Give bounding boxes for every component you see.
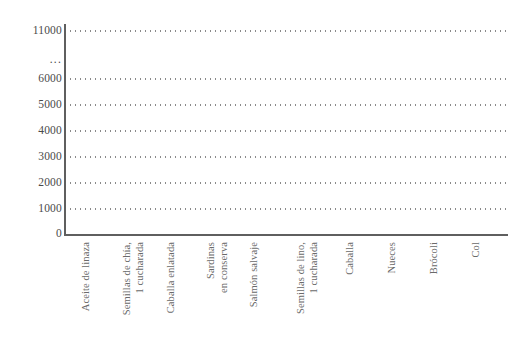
y-axis-tick-label: 5000 — [4, 98, 62, 110]
y-axis-tick-label: 11000 — [4, 24, 62, 36]
x-axis-label-caballa: Caballa — [344, 242, 357, 362]
gridline — [68, 182, 507, 184]
x-axis-label-brocoli: Brócoli — [428, 242, 441, 362]
x-axis-label-semillas-de-lino: Semillas de lino, 1 cucharada — [295, 242, 320, 362]
y-axis-tick-labels: 11000...6000500040003000200010000 — [0, 0, 62, 363]
gridline — [68, 78, 507, 80]
y-axis-tick-label: 2000 — [4, 176, 62, 188]
x-axis-label-salmon-salvaje: Salmón salvaje — [248, 242, 261, 362]
x-axis-label-col: Col — [470, 242, 483, 362]
gridline — [68, 208, 507, 210]
y-axis-line — [64, 24, 66, 236]
gridline — [68, 130, 507, 132]
gridline — [68, 156, 507, 158]
y-axis-tick-label: 3000 — [4, 150, 62, 162]
x-axis-label-caballa-enlatada: Caballa enlatada — [165, 242, 178, 362]
y-axis-break-marker: ... — [4, 53, 62, 65]
x-axis-line — [64, 234, 508, 236]
x-axis-label-aceite-de-linaza: Aceite de linaza — [80, 242, 93, 362]
x-axis-label-nueces: Nueces — [386, 242, 399, 362]
x-axis-label-sardinas-en-conserva: Sardinas en conserva — [205, 242, 230, 362]
gridline — [68, 104, 507, 106]
y-axis-tick-label: 6000 — [4, 72, 62, 84]
y-axis-tick-label: 0 — [4, 227, 62, 239]
gridline — [68, 30, 507, 32]
x-axis-label-semillas-de-chia: Semillas de chía, 1 cucharada — [121, 242, 146, 362]
bar-chart: 11000...6000500040003000200010000 Aceite… — [0, 0, 517, 363]
y-axis-tick-label: 4000 — [4, 124, 62, 136]
y-axis-tick-label: 1000 — [4, 202, 62, 214]
